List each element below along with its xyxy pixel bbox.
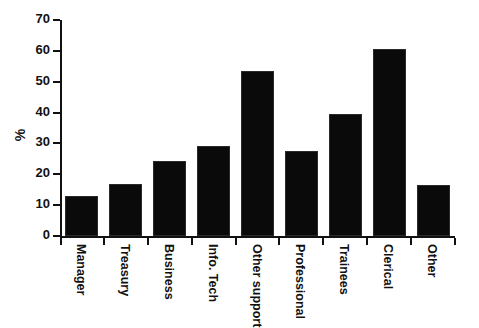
y-tick-mark <box>53 142 60 144</box>
y-tick-label: 30 <box>36 134 50 150</box>
y-tick-mark <box>53 81 60 83</box>
y-tick-label: 20 <box>36 165 50 181</box>
y-axis-line <box>60 20 62 236</box>
x-axis-label: Treasury <box>118 244 131 296</box>
y-tick-label: 0 <box>43 227 50 243</box>
x-tick-mark <box>278 238 280 245</box>
bar <box>285 151 318 236</box>
y-tick-mark <box>53 50 60 52</box>
x-tick-mark <box>454 238 456 245</box>
y-tick-label: 50 <box>36 73 50 89</box>
x-axis-label: Business <box>162 244 175 300</box>
bar <box>417 185 450 236</box>
y-axis-title: % <box>13 129 27 141</box>
y-tick-mark <box>53 112 60 114</box>
y-tick-mark <box>53 204 60 206</box>
y-tick-label: 70 <box>36 11 50 27</box>
plot-area: 010203040506070 <box>60 20 455 236</box>
bar <box>241 71 274 236</box>
x-tick-mark <box>191 238 193 245</box>
bar-chart-figure: % 010203040506070 ManagerTreasuryBusines… <box>0 0 479 328</box>
y-tick-label: 60 <box>36 42 50 58</box>
x-axis-label: Trainees <box>338 244 351 295</box>
bar <box>373 49 406 236</box>
bar <box>197 146 230 236</box>
x-axis-line <box>60 236 455 238</box>
x-axis-label: Other <box>426 244 439 277</box>
bar <box>153 161 186 236</box>
x-axis-label: Clerical <box>382 244 395 289</box>
x-tick-mark <box>366 238 368 245</box>
y-tick-mark <box>53 173 60 175</box>
x-tick-mark <box>410 238 412 245</box>
x-tick-mark <box>322 238 324 245</box>
y-tick-mark <box>53 235 60 237</box>
x-axis-label: Info. Tech <box>206 244 219 302</box>
x-tick-mark <box>60 238 62 245</box>
x-axis-label: Manager <box>74 244 87 295</box>
y-tick-mark <box>53 19 60 21</box>
x-tick-mark <box>235 238 237 245</box>
x-axis-label: Other support <box>250 244 263 327</box>
y-tick-label: 10 <box>36 196 50 212</box>
bar <box>65 196 98 236</box>
y-tick-label: 40 <box>36 104 50 120</box>
x-tick-mark <box>147 238 149 245</box>
bar <box>109 184 142 236</box>
x-tick-mark <box>103 238 105 245</box>
x-axis-label: Professional <box>294 244 307 319</box>
bar <box>329 114 362 236</box>
